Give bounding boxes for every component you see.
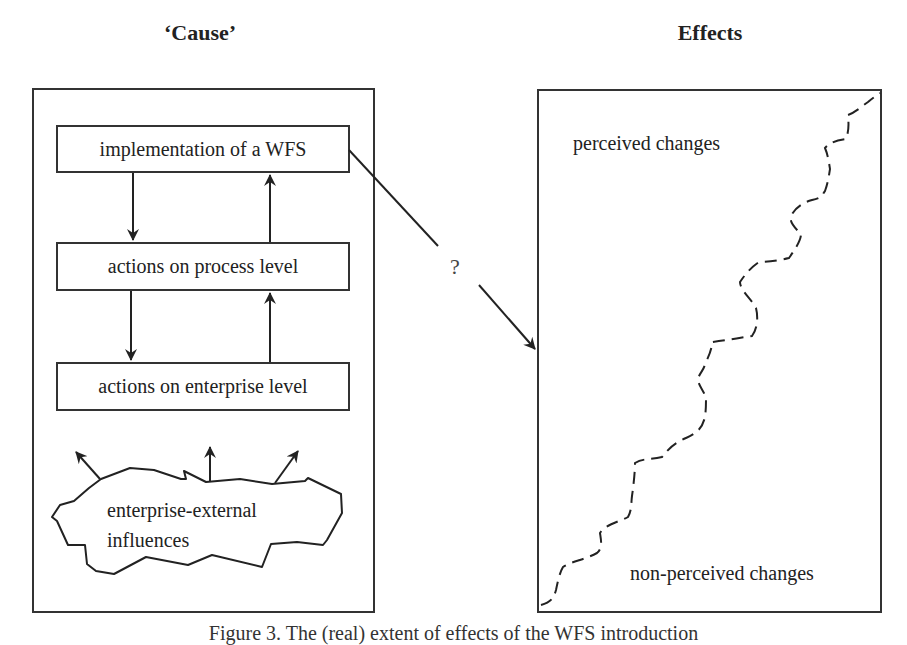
effects-heading: Effects — [640, 20, 780, 46]
figure-caption: Figure 3. The (real) extent of effects o… — [0, 622, 907, 645]
effects-panel — [537, 89, 882, 613]
cause-heading: ‘Cause’ — [130, 20, 270, 46]
cloud-label-line2: influences — [107, 529, 189, 552]
cloud-label-line1: enterprise-external — [107, 499, 257, 522]
node-wfs-implementation: implementation of a WFS — [56, 125, 350, 173]
node-enterprise-level: actions on enterprise level — [56, 362, 350, 411]
link-question-label: ? — [450, 254, 460, 280]
non-perceived-changes-label: non-perceived changes — [630, 562, 814, 585]
node-enterprise-level-label: actions on enterprise level — [98, 375, 307, 398]
link-arrow-icon — [349, 150, 535, 349]
perceived-changes-label: perceived changes — [573, 132, 720, 155]
node-process-level: actions on process level — [56, 242, 350, 291]
node-process-level-label: actions on process level — [108, 255, 299, 278]
node-wfs-implementation-label: implementation of a WFS — [100, 138, 307, 161]
